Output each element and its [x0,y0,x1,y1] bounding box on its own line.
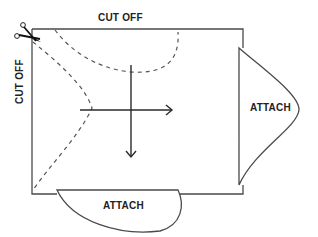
cut-off-left-label: CUT OFF [14,59,25,104]
right-attach-flap [239,48,299,185]
attach-right-label: ATTACH [250,102,291,113]
grain-arrows [80,65,172,157]
cut-line-top [55,30,178,72]
pattern-diagram [0,0,318,237]
attach-bottom-label: ATTACH [103,200,144,211]
main-sheet-outline [32,29,243,194]
cut-line-left [33,42,92,190]
cut-off-top-label: CUT OFF [98,12,143,23]
scissors-icon [15,23,41,42]
